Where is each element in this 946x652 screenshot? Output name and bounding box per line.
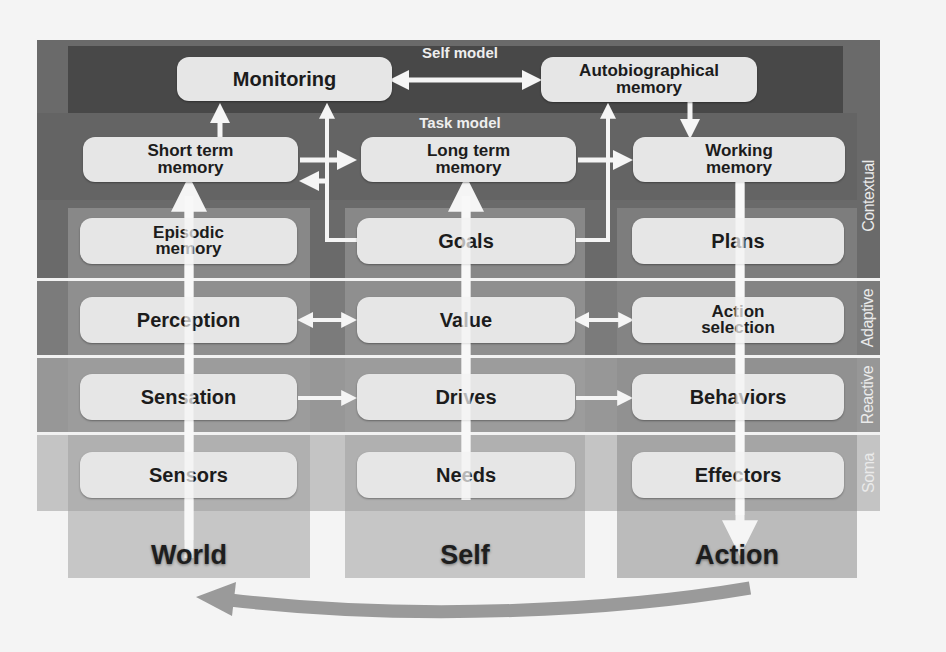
action-label: Action xyxy=(617,540,857,571)
world-label: World xyxy=(68,540,310,571)
self-label: Self xyxy=(345,540,585,571)
